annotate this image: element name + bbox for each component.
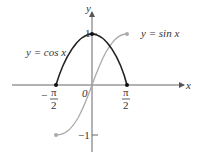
sin-label: y = sin x xyxy=(140,27,179,39)
pos-half-pi-num: π xyxy=(123,86,129,98)
y-axis-label: y xyxy=(85,2,91,14)
neg-half-pi-den: 2 xyxy=(51,99,57,111)
cos-label: y = cos x xyxy=(25,46,66,58)
pos-half-pi-den: 2 xyxy=(123,99,129,111)
neg-half-pi-sign: − xyxy=(41,89,47,101)
origin-label: 0 xyxy=(82,87,88,99)
y-one-label: 1 xyxy=(85,27,91,39)
trig-graph: x y 0 1 −1 − π 2 π 2 y = cos x y = sin x xyxy=(0,0,204,160)
x-axis-label: x xyxy=(185,79,191,91)
y-neg-one-label: −1 xyxy=(78,129,90,141)
neg-half-pi-num: π xyxy=(51,86,57,98)
